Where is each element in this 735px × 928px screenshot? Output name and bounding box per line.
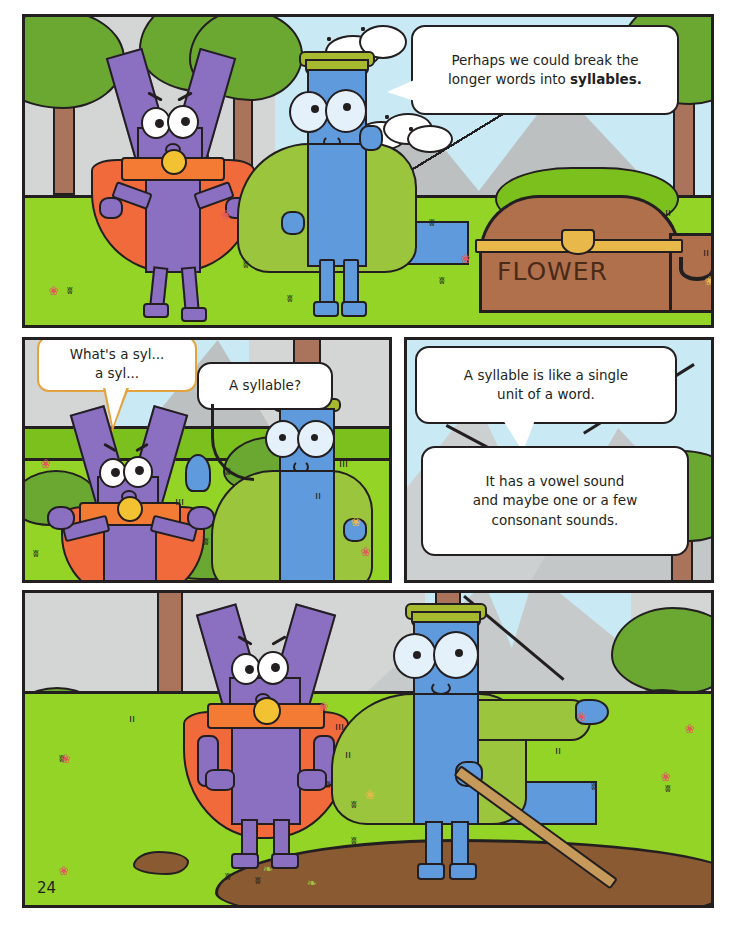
foot-right — [341, 301, 367, 317]
hand-right-on-hip — [297, 769, 327, 791]
flower: ❀ — [685, 723, 695, 735]
grass-tuft: ıı — [129, 713, 135, 724]
pupil-right — [271, 663, 280, 672]
sash-knot — [253, 697, 281, 725]
flower: ❀ — [221, 209, 231, 221]
grass-tuft: ıı — [703, 247, 709, 258]
hand-holding-cloak — [281, 211, 305, 235]
grass-tuft: ıı — [315, 490, 321, 501]
grass-tuft: ʬ — [351, 835, 357, 846]
eye-left — [289, 91, 329, 133]
eye-right — [325, 89, 367, 133]
pupil-right — [181, 117, 190, 126]
bubble-vowel-sound: It has a vowel sound and maybe one or a … — [421, 446, 689, 556]
comic-page: FLOWER ʬ ʬ ʬ ʬ ʬ ıı ıı ❀ ❀ ❀ ❀ Perhaps w… — [0, 0, 735, 928]
grass-tuft: ʬ — [591, 781, 597, 792]
v-torso — [231, 713, 301, 825]
pupil-right — [311, 434, 318, 441]
panel-4-by-the-mud: ❧ ❧ — [22, 590, 714, 908]
panel-3-explanation: A syllable is like a single unit of a wo… — [404, 337, 714, 583]
grass-tuft: ʬ — [325, 779, 331, 790]
flower: ❀ — [49, 285, 59, 297]
grass-tuft: ııı — [339, 458, 348, 469]
hand-on-chin — [359, 125, 383, 151]
hand-left-on-hip — [205, 769, 235, 791]
grass-tuft: ʬ — [225, 871, 231, 882]
grass-tuft: ıı — [555, 745, 561, 756]
grass-tuft: ııı — [335, 721, 344, 732]
chest-lock — [561, 229, 595, 255]
flower: ❀ — [461, 253, 471, 265]
l-front-panel — [279, 470, 335, 583]
grass-tuft: ıı — [345, 749, 351, 760]
grass-tuft: ʬ — [287, 293, 293, 304]
foot-right — [449, 863, 477, 880]
hand-pointing-up — [185, 454, 211, 492]
grass-tuft: ʬ — [67, 285, 73, 296]
sash-knot — [161, 149, 187, 175]
foot-left — [143, 303, 169, 318]
bubble-text: Perhaps we could break the longer words … — [448, 51, 642, 89]
pupil-left — [413, 651, 421, 659]
flower: ❀ — [351, 516, 361, 528]
pupil-left — [111, 468, 120, 477]
bubble-text: What's a syl... a syl... — [70, 345, 165, 383]
flower: ❀ — [705, 275, 714, 287]
flower: ❀ — [41, 458, 51, 470]
character-v — [47, 402, 227, 583]
grass-tuft: ʬ — [203, 536, 209, 547]
flower: ❀ — [365, 789, 375, 801]
grass-tuft: ııı — [175, 496, 184, 507]
flower: ❀ — [661, 771, 671, 783]
flower: ❀ — [577, 711, 587, 723]
grass-tuft: ʬ — [429, 217, 435, 228]
hand-left-open — [47, 506, 75, 530]
sash-knot — [117, 496, 143, 522]
foot-left — [231, 853, 259, 869]
pupil-left — [245, 665, 254, 674]
foot-left — [417, 863, 445, 880]
panel-1-forest-with-chest: FLOWER ʬ ʬ ʬ ʬ ʬ ıı ıı ❀ ❀ ❀ ❀ Perhaps w… — [22, 14, 714, 328]
pupil-left — [311, 105, 319, 113]
pupil-right — [455, 649, 463, 657]
foot-right — [181, 307, 207, 322]
leaf-on-mud: ❧ — [307, 877, 317, 889]
pupil-left — [155, 119, 164, 128]
hand-left — [99, 197, 123, 219]
pupil-right — [135, 466, 144, 475]
chest-label-flower: FLOWER — [497, 257, 608, 286]
character-v — [85, 37, 265, 327]
panel-2-confused-v: ʬ ııı ʬ ıı ııı ʬ ❀ ❀ ❀ What's a syl... a… — [22, 337, 392, 583]
flower: ❀ — [61, 753, 71, 765]
foot-left — [313, 301, 339, 317]
grass-tuft: ʬ — [351, 799, 357, 810]
bubble-text: It has a vowel sound and maybe one or a … — [473, 472, 637, 529]
l-front-panel — [413, 693, 479, 825]
pupil-right — [343, 103, 351, 111]
grass-tuft: ʬ — [439, 275, 445, 286]
foot-right — [271, 853, 299, 869]
pupil-left — [279, 434, 286, 441]
flower: ❀ — [59, 865, 69, 877]
grass-tuft: ʬ — [33, 548, 39, 559]
grass-tuft: ʬ — [243, 259, 249, 270]
grass-tuft: ʬ — [665, 783, 671, 794]
bubble-text: A syllable is like a single unit of a wo… — [464, 366, 628, 404]
treasure-chest: FLOWER — [469, 195, 714, 315]
grass-tuft: ıı — [665, 207, 671, 218]
character-l — [377, 599, 637, 879]
bubble-a-syllable: A syllable? — [197, 362, 333, 410]
l-front-panel — [307, 143, 367, 267]
cloak-sleeve-right — [469, 699, 591, 741]
page-number: 24 — [37, 879, 56, 897]
flower: ❀ — [361, 546, 371, 558]
bubble-definition: A syllable is like a single unit of a wo… — [415, 346, 677, 424]
bubble-text: A syllable? — [229, 376, 301, 395]
bubble-whats-a-syl: What's a syl... a syl... — [37, 337, 197, 392]
bubble-perhaps: Perhaps we could break the longer words … — [411, 25, 679, 115]
flower: ❀ — [319, 701, 329, 713]
grass-tuft: ʬ — [255, 875, 261, 886]
